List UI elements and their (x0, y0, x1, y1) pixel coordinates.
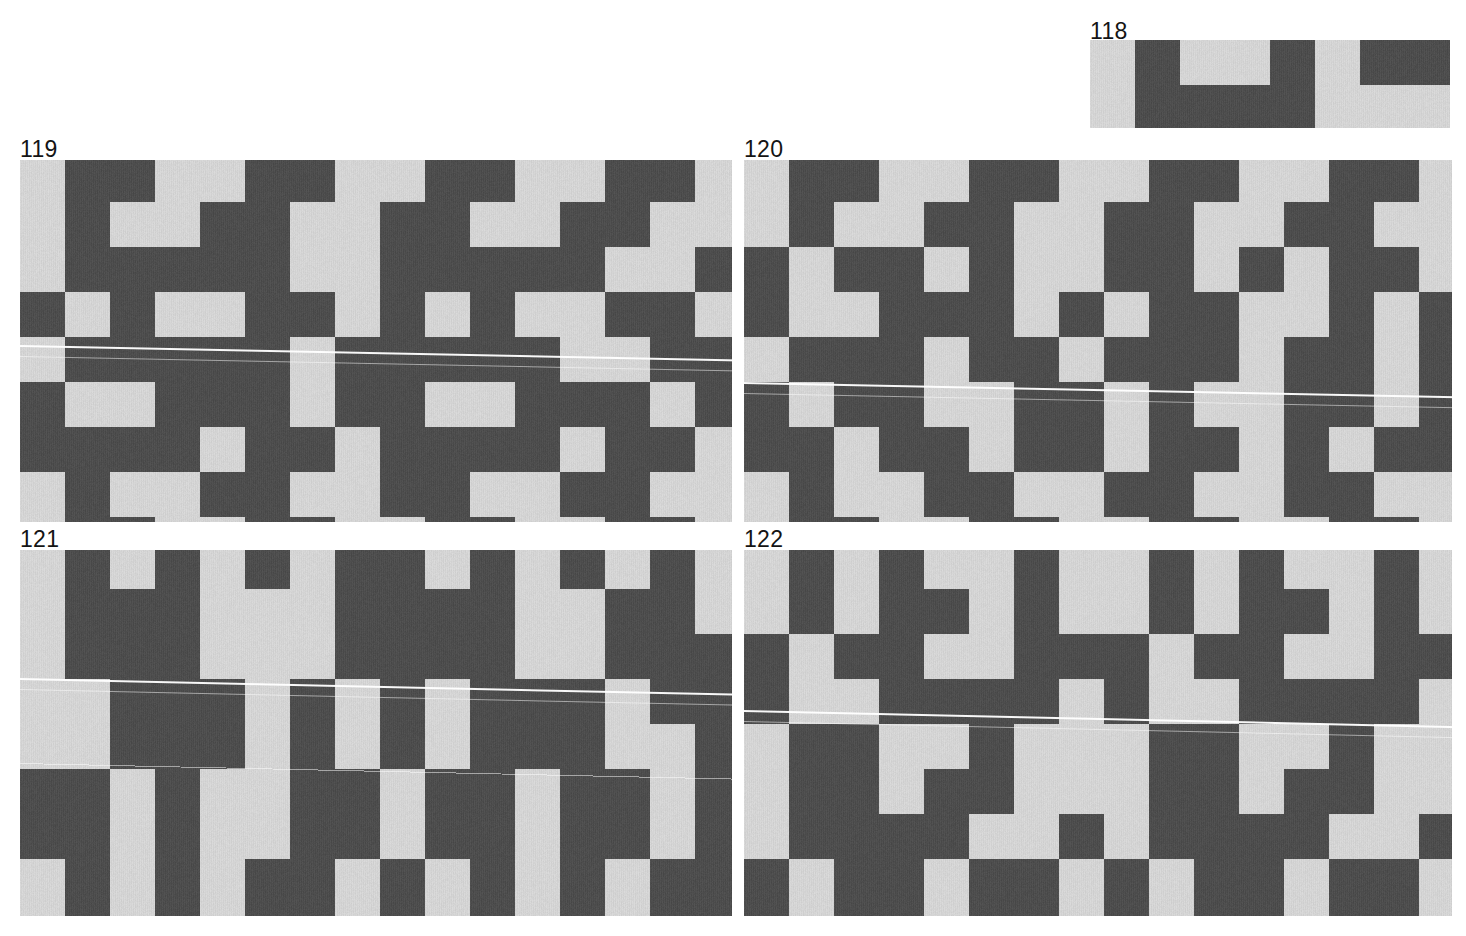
plate-grid-canvas (744, 550, 1452, 916)
plate-number-label: 122 (744, 528, 783, 551)
pattern-plate: 118 (1090, 20, 1450, 128)
plate-pattern-image (1090, 40, 1450, 128)
plate-grid-canvas (1090, 40, 1450, 128)
plate-number-label: 120 (744, 138, 783, 161)
pattern-plate: 122 (744, 528, 1452, 916)
plate-pattern-image (20, 550, 732, 916)
pattern-plate: 120 (744, 138, 1452, 522)
plate-grid-canvas (744, 160, 1452, 522)
pattern-plate: 121 (20, 528, 732, 916)
pattern-plate-sheet: 118119120121122 (0, 0, 1466, 936)
plate-pattern-image (20, 160, 732, 522)
plate-pattern-image (744, 160, 1452, 522)
pattern-plate: 119 (20, 138, 732, 522)
plate-number-label: 119 (20, 138, 58, 161)
plate-grid-canvas (20, 550, 732, 916)
plate-grid-canvas (20, 160, 732, 522)
plate-number-label: 121 (20, 528, 59, 551)
plate-pattern-image (744, 550, 1452, 916)
